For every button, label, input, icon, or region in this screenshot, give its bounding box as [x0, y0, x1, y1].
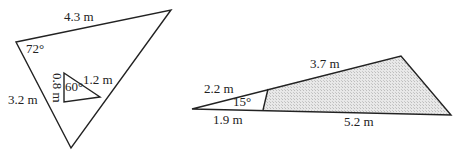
- shaded-region: [263, 56, 451, 115]
- label-angle-15: 15°: [233, 94, 251, 109]
- label-upper-large: 3.7 m: [310, 56, 340, 71]
- label-upper-small: 2.2 m: [204, 81, 234, 96]
- label-angle-60: 60°: [65, 79, 83, 94]
- label-lower-small: 1.9 m: [213, 112, 243, 127]
- geometry-diagram: 4.3 m 72° 3.2 m 1.2 m 60° 0.8 m 2.2 m 3.…: [0, 0, 462, 162]
- label-top-side: 4.3 m: [64, 9, 94, 24]
- label-hypotenuse: 1.2 m: [83, 72, 113, 87]
- label-lower-large: 5.2 m: [344, 114, 374, 129]
- right-figure: 2.2 m 3.7 m 15° 1.9 m 5.2 m: [192, 56, 451, 129]
- label-angle-72: 72°: [26, 41, 44, 56]
- left-figure: 4.3 m 72° 3.2 m 1.2 m 60° 0.8 m: [8, 9, 171, 148]
- label-vertical-side: 0.8 m: [50, 73, 65, 103]
- label-left-side: 3.2 m: [8, 92, 38, 107]
